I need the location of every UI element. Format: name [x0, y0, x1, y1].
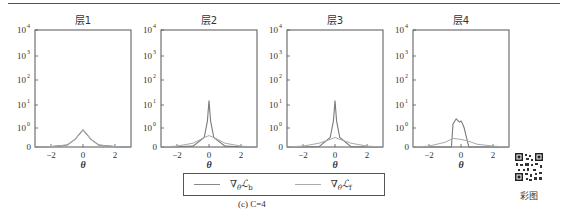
- svg-text:3: 3: [405, 49, 408, 55]
- svg-text:2: 2: [27, 73, 30, 79]
- legend-label-b: ∇θℒb: [230, 178, 253, 192]
- qr-label: 彩图: [520, 189, 538, 202]
- chart-panels: 层11041031021011000−202θ层2104103102101100…: [0, 0, 566, 172]
- y-tick-label: 10: [17, 123, 27, 133]
- y-tick-label: 10: [395, 75, 405, 85]
- y-tick-label: 10: [143, 51, 153, 61]
- y-tick-label: 10: [17, 75, 27, 85]
- y-tick-label: 10: [17, 51, 27, 61]
- svg-text:0: 0: [279, 121, 282, 127]
- svg-text:2: 2: [279, 73, 282, 79]
- svg-text:4: 4: [153, 23, 156, 29]
- svg-text:0: 0: [27, 121, 30, 127]
- x-tick-label: −2: [424, 150, 434, 160]
- y-tick-label: 10: [143, 75, 153, 85]
- svg-text:1: 1: [279, 98, 282, 104]
- y-tick-label: 0: [153, 142, 158, 152]
- x-tick-label: −2: [298, 150, 308, 160]
- plot-frame: [161, 30, 257, 147]
- svg-text:1: 1: [405, 98, 408, 104]
- svg-text:2: 2: [405, 73, 408, 79]
- y-tick-label: 10: [395, 100, 405, 110]
- y-tick-label: 10: [269, 100, 279, 110]
- y-tick-label: 10: [269, 75, 279, 85]
- series-b-line: [161, 101, 257, 147]
- svg-text:4: 4: [27, 23, 30, 29]
- x-tick-label: −2: [172, 150, 182, 160]
- legend: ∇θℒb ∇θℒf: [183, 173, 385, 196]
- svg-text:0: 0: [153, 121, 156, 127]
- x-axis-label: θ: [332, 159, 338, 170]
- svg-text:3: 3: [153, 49, 156, 55]
- panel-title: 层2: [201, 15, 217, 26]
- y-tick-label: 10: [17, 25, 27, 35]
- y-tick-label: 10: [17, 100, 27, 110]
- panel-title: 层3: [327, 15, 343, 26]
- y-tick-label: 10: [143, 25, 153, 35]
- series-b-line: [287, 101, 383, 147]
- y-tick-label: 10: [269, 51, 279, 61]
- y-tick-label: 0: [27, 142, 32, 152]
- plot-frame: [413, 30, 509, 147]
- legend-swatch-b: [194, 184, 220, 185]
- svg-text:1: 1: [27, 98, 30, 104]
- figure-caption: (c) C=4: [238, 199, 266, 209]
- panel-title: 层1: [75, 15, 91, 26]
- y-tick-label: 10: [269, 123, 279, 133]
- y-tick-label: 0: [279, 142, 284, 152]
- qr-code-icon: [514, 152, 544, 182]
- y-tick-label: 10: [395, 25, 405, 35]
- x-tick-label: −2: [46, 150, 56, 160]
- y-tick-label: 10: [143, 123, 153, 133]
- svg-text:4: 4: [405, 23, 408, 29]
- x-axis-label: θ: [458, 159, 464, 170]
- x-tick-label: 2: [365, 150, 370, 160]
- series-b-line: [413, 119, 509, 147]
- x-tick-label: 2: [113, 150, 118, 160]
- legend-label-f: ∇θℒf: [331, 178, 352, 192]
- x-tick-label: 2: [239, 150, 244, 160]
- svg-text:3: 3: [27, 49, 30, 55]
- y-tick-label: 10: [395, 123, 405, 133]
- svg-text:1: 1: [153, 98, 156, 104]
- x-axis-label: θ: [80, 159, 86, 170]
- legend-swatch-f: [295, 184, 321, 185]
- y-tick-label: 0: [405, 142, 410, 152]
- plot-frame: [287, 30, 383, 147]
- svg-text:3: 3: [279, 49, 282, 55]
- x-axis-label: θ: [206, 159, 212, 170]
- legend-item-f: ∇θℒf: [295, 178, 352, 192]
- y-tick-label: 10: [395, 51, 405, 61]
- legend-item-b: ∇θℒb: [194, 178, 253, 192]
- svg-text:4: 4: [279, 23, 282, 29]
- x-tick-label: 2: [491, 150, 496, 160]
- panel-title: 层4: [453, 15, 469, 26]
- y-tick-label: 10: [143, 100, 153, 110]
- svg-text:0: 0: [405, 121, 408, 127]
- y-tick-label: 10: [269, 25, 279, 35]
- svg-text:2: 2: [153, 73, 156, 79]
